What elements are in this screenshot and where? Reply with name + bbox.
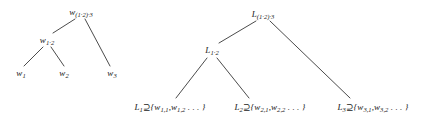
- node-L-3-subscript: 3: [343, 106, 346, 113]
- node-L-2-member2-subscript: 2,2: [277, 106, 285, 113]
- edge-w12-to-w2: [51, 47, 64, 66]
- node-w-12: w1·2: [40, 36, 54, 45]
- node-L-2-member1-subscript: 2,1: [260, 106, 268, 113]
- node-L-3-superset-symbol: ⊇: [346, 102, 354, 112]
- node-w-root-subscript: (1·2)·3: [75, 11, 93, 18]
- node-L-2-set: L2⊇{w2,1,w2,2 . . . }: [235, 103, 306, 112]
- node-L-3-set-open: {w: [354, 102, 364, 112]
- node-L-12: L1·2: [205, 46, 218, 55]
- edge-w-root-to-w12: [53, 19, 75, 33]
- node-L-1-set-open: {w: [151, 102, 161, 112]
- edge-w12-to-w1: [24, 47, 43, 66]
- node-w-root: w(1·2)·3: [69, 8, 93, 17]
- node-L-1-set-ellipsis: . . . }: [185, 102, 205, 112]
- node-w-1: w1: [16, 69, 25, 78]
- node-w-12-subscript: 1·2: [46, 39, 54, 46]
- node-L-3-member2-subscript: 3,2: [380, 106, 388, 113]
- node-L-1-member1-subscript: 1,1: [160, 106, 168, 113]
- node-w-1-subscript: 1: [22, 72, 25, 79]
- edge-L-root-to-L3: [270, 21, 350, 98]
- edge-L-root-to-L12: [219, 21, 256, 43]
- edge-L12-to-L2: [217, 58, 249, 98]
- node-L-root-subscript: (1·2)·3: [257, 13, 275, 20]
- node-L-1-set-separator: ,w: [169, 102, 177, 112]
- node-L-12-subscript: 1·2: [210, 49, 218, 56]
- node-L-2-subscript: 2: [240, 106, 243, 113]
- node-w-2: w2: [59, 69, 68, 78]
- node-L-3-set-ellipsis: . . . }: [388, 102, 408, 112]
- node-L-3-member1-subscript: 3,1: [363, 106, 371, 113]
- tree-figure: w(1·2)·3 w1·2 w1 w2 w3 L(1·2)·3 L1·2 L1⊇…: [0, 0, 430, 125]
- edge-w-root-to-w3: [85, 19, 110, 66]
- node-L-1-subscript: 1: [140, 106, 143, 113]
- node-w-3: w3: [107, 69, 116, 78]
- node-w-3-subscript: 3: [113, 72, 116, 79]
- node-L-1-member2-subscript: 1,2: [177, 106, 185, 113]
- node-L-3-set-separator: ,w: [372, 102, 380, 112]
- node-L-2-set-open: {w: [251, 102, 261, 112]
- node-L-3-set: L3⊇{w3,1,w3,2 . . . }: [338, 103, 409, 112]
- node-L-root: L(1·2)·3: [252, 10, 275, 19]
- node-L-2-set-ellipsis: . . . }: [285, 102, 305, 112]
- node-w-2-subscript: 2: [65, 72, 68, 79]
- edge-L12-to-L1: [176, 58, 207, 98]
- node-L-2-set-separator: ,w: [269, 102, 277, 112]
- node-L-1-set: L1⊇{w1,1,w1,2 . . . }: [135, 103, 206, 112]
- node-L-2-superset-symbol: ⊇: [243, 102, 251, 112]
- node-L-1-superset-symbol: ⊇: [143, 102, 151, 112]
